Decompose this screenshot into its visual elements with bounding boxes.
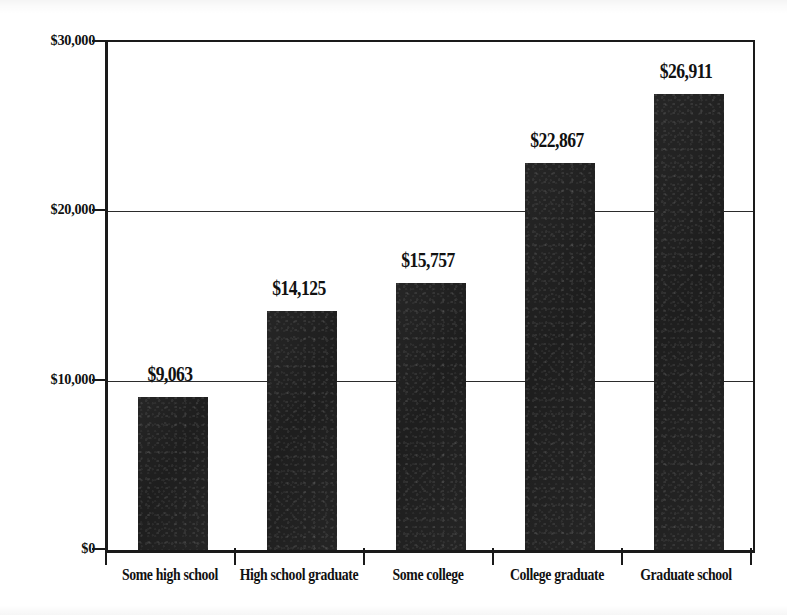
bar <box>267 311 337 550</box>
x-axis-category-label: Graduate school <box>640 566 732 584</box>
bar <box>396 283 466 550</box>
bar <box>525 163 595 550</box>
x-axis-tick-mark <box>621 548 623 565</box>
x-axis-category-label: College graduate <box>509 566 603 584</box>
x-axis-tick-mark <box>750 548 752 565</box>
x-axis-category-label: High school graduate <box>239 566 358 584</box>
bar-value-label: $14,125 <box>272 277 326 300</box>
x-axis-tick-mark <box>363 548 365 565</box>
y-axis-tick-label: $0 <box>14 539 95 557</box>
bar <box>138 397 208 550</box>
x-axis-tick-mark <box>234 548 236 565</box>
scan-artifact-bottom <box>0 605 787 615</box>
y-axis-tick-mark <box>92 209 105 211</box>
bar-value-label: $22,867 <box>530 129 584 152</box>
bar-chart: $0$10,000$20,000$30,000 $9,063$14,125$15… <box>0 0 787 615</box>
plot-area <box>105 40 755 553</box>
x-axis-category-label: Some high school <box>121 566 217 584</box>
scan-artifact-top <box>0 0 787 14</box>
x-axis-tick-mark <box>105 548 107 565</box>
y-axis-tick-label: $30,000 <box>14 31 95 49</box>
y-axis-tick-mark <box>92 379 105 381</box>
bar-value-label: $15,757 <box>401 249 455 272</box>
y-axis-tick-label: $10,000 <box>14 370 95 388</box>
y-axis-tick-mark <box>92 40 105 42</box>
y-axis-tick-label: $20,000 <box>14 200 95 218</box>
bar-value-label: $26,911 <box>659 60 712 83</box>
y-axis-tick-mark <box>92 548 105 550</box>
x-axis-category-label: Some college <box>392 566 463 584</box>
bar-value-label: $9,063 <box>147 363 192 386</box>
x-axis-tick-mark <box>492 548 494 565</box>
bar <box>654 94 724 550</box>
